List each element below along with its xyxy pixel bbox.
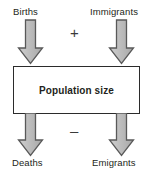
- outflow-label-emigrants: Emigrants: [92, 158, 136, 168]
- inflow-label-immigrants: Immigrants: [90, 7, 138, 17]
- outflow-label-deaths: Deaths: [12, 158, 43, 168]
- down-block-arrow-icon-immigrants: [108, 19, 135, 65]
- down-block-arrow-icon-births: [17, 19, 44, 65]
- inflow-label-births: Births: [13, 7, 38, 17]
- down-block-arrow-icon-emigrants: [108, 113, 135, 157]
- population-balance-diagram: Births Immigrants +: [0, 0, 154, 178]
- population-size-box: Population size: [13, 66, 140, 114]
- plus-sign-icon: +: [70, 25, 79, 40]
- minus-sign-icon: –: [70, 123, 78, 138]
- population-size-label: Population size: [39, 85, 114, 96]
- down-block-arrow-icon-deaths: [17, 113, 44, 157]
